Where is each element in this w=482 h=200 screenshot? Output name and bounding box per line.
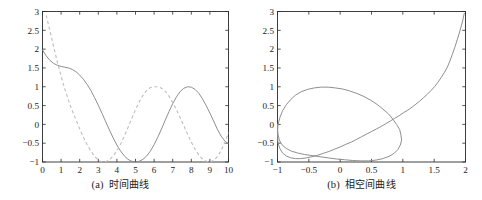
x-tick-label: 2 — [463, 165, 468, 175]
plot-b-curves — [278, 13, 465, 160]
plot-a-curves — [43, 15, 229, 162]
y-tick-label: 2.5 — [28, 26, 40, 36]
y-tick-label: 2 — [34, 44, 39, 54]
y-tick-label: 3 — [34, 7, 39, 17]
plot-b-frame — [278, 12, 466, 163]
x-tick-label: −0.5 — [300, 165, 317, 175]
x-tick-label: 1 — [59, 165, 64, 175]
x-tick-label: 10 — [224, 165, 234, 175]
x-tick-label: 0.5 — [366, 165, 378, 175]
y-tick-label: 1.5 — [28, 63, 40, 73]
y-tick-label: −1 — [29, 157, 39, 167]
panel-a-caption: (a) 时间曲线 — [0, 176, 241, 191]
y-tick-label: 1 — [269, 82, 274, 92]
y-tick-label: 0.5 — [28, 101, 40, 111]
x-tick-label: 5 — [133, 165, 138, 175]
panel-b-caption-text: 相空间曲线 — [343, 179, 396, 190]
curve-dashed — [46, 15, 228, 162]
panel-b: −1−0.500.511.52−1−0.500.511.522.53 (b) 相… — [241, 0, 482, 200]
panel-a-caption-label: (a) — [92, 179, 104, 190]
panel-b-caption: (b) 相空间曲线 — [241, 176, 482, 191]
phase-space-plot: −1−0.500.511.52−1−0.500.511.522.53 — [241, 0, 482, 200]
y-tick-label: −1 — [264, 157, 274, 167]
x-tick-label: 9 — [208, 165, 213, 175]
y-tick-label: −0.5 — [22, 138, 39, 148]
plot-a-axes — [43, 12, 229, 163]
x-tick-label: 8 — [189, 165, 194, 175]
y-tick-label: 3 — [269, 7, 274, 17]
x-tick-label: 4 — [115, 165, 120, 175]
y-tick-label: 0.5 — [263, 101, 275, 111]
plot-b-axes — [278, 12, 466, 163]
x-tick-label: 3 — [96, 165, 101, 175]
figure-container: 012345678910−1−0.500.511.522.53 (a) 时间曲线… — [0, 0, 482, 200]
x-tick-label: 1.5 — [428, 165, 440, 175]
y-tick-label: 0 — [269, 120, 274, 130]
x-tick-label: 0 — [338, 165, 343, 175]
y-tick-label: 1.5 — [263, 63, 275, 73]
x-tick-label: 7 — [170, 165, 175, 175]
plot-a-tick-labels: 012345678910−1−0.500.511.522.53 — [22, 7, 233, 175]
x-tick-label: 6 — [152, 165, 157, 175]
time-curve-plot: 012345678910−1−0.500.511.522.53 — [0, 0, 241, 200]
y-tick-label: 2.5 — [263, 26, 275, 36]
plot-a-ticks — [43, 12, 229, 163]
panel-a: 012345678910−1−0.500.511.522.53 (a) 时间曲线 — [0, 0, 241, 200]
y-tick-label: 1 — [34, 82, 39, 92]
panel-a-caption-text: 时间曲线 — [107, 179, 150, 190]
y-tick-label: 2 — [269, 44, 274, 54]
x-tick-label: 1 — [401, 165, 406, 175]
x-tick-label: 2 — [77, 165, 82, 175]
curve-solid — [278, 13, 465, 160]
y-tick-label: 0 — [34, 120, 39, 130]
x-tick-label: −1 — [273, 165, 283, 175]
x-tick-label: 0 — [40, 165, 45, 175]
plot-b-ticks — [278, 12, 466, 163]
panel-b-caption-label: (b) — [327, 179, 340, 190]
y-tick-label: −0.5 — [257, 138, 274, 148]
plot-a-frame — [43, 12, 229, 163]
